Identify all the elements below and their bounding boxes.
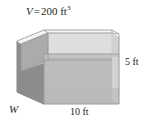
length-label: 10 ft [70,107,89,117]
volume-equals-sign: = [33,5,41,17]
height-label: 5 ft [125,57,139,67]
box-rim-back [44,30,112,33]
volume-value: 200 ft [41,5,67,17]
volume-label: V=200 ft3 [26,6,70,17]
box-front-top-band [44,54,119,57]
volume-variable: V [26,5,33,17]
box-front-shade [44,88,119,104]
volume-exponent: 3 [67,4,71,12]
width-label: W [9,104,18,115]
geometry-figure: V=200 ft3 W 10 ft 5 ft [0,0,156,126]
